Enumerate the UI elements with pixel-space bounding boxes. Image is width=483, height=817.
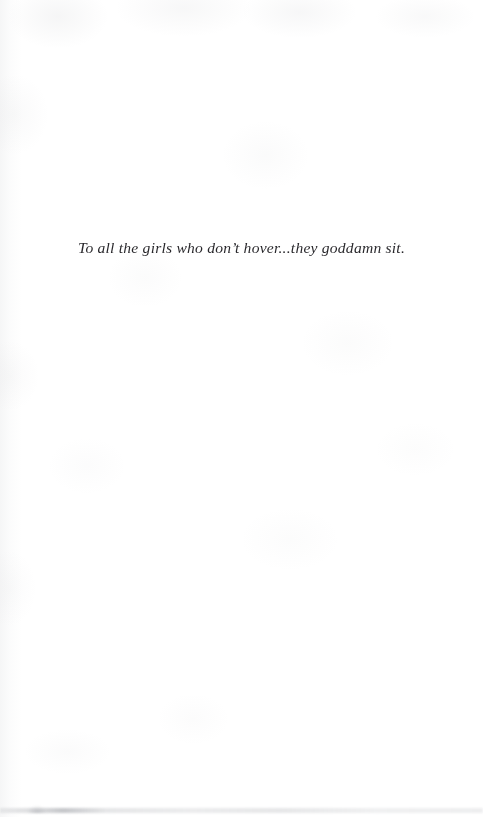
left-gutter-shadow xyxy=(0,0,22,817)
book-dedication-page: To all the girls who don’t hover...they … xyxy=(0,0,483,817)
dedication-text: To all the girls who don’t hover...they … xyxy=(78,238,405,258)
bottom-scan-smudge xyxy=(24,795,50,813)
bottom-scan-edge-line xyxy=(0,808,483,813)
paper-texture-overlay xyxy=(0,0,483,817)
dedication-block: To all the girls who don’t hover...they … xyxy=(0,238,483,258)
